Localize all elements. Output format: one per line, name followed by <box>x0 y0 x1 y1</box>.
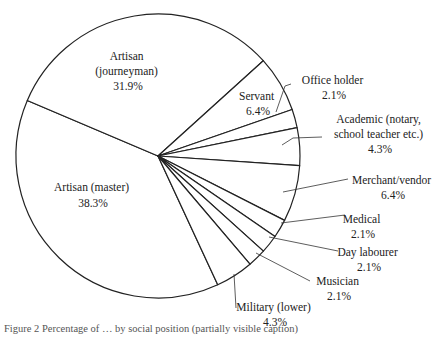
pie-slices <box>16 14 300 298</box>
label-office-holder: Office holder 2.1% <box>302 74 366 101</box>
label-merchant: Merchant/vendor 6.4% <box>352 174 434 201</box>
figure-caption: Figure 2 Percentage of … by social posit… <box>4 323 298 334</box>
pie-chart: Artisan (journeyman) 31.9% Artisan (mast… <box>0 0 446 338</box>
label-day-labourer: Day labourer 2.1% <box>337 246 400 273</box>
label-musician: Musician 2.1% <box>316 275 362 302</box>
label-academic: Academic (notary, school teacher etc.) 4… <box>334 113 426 155</box>
label-medical: Medical 2.1% <box>343 213 384 240</box>
